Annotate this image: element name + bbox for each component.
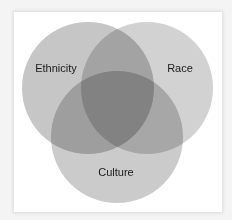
circle-culture [51, 71, 183, 203]
venn-diagram: Ethnicity Race Culture [0, 0, 232, 220]
label-culture: Culture [98, 166, 133, 178]
label-race: Race [167, 62, 193, 74]
label-ethnicity: Ethnicity [35, 62, 77, 74]
